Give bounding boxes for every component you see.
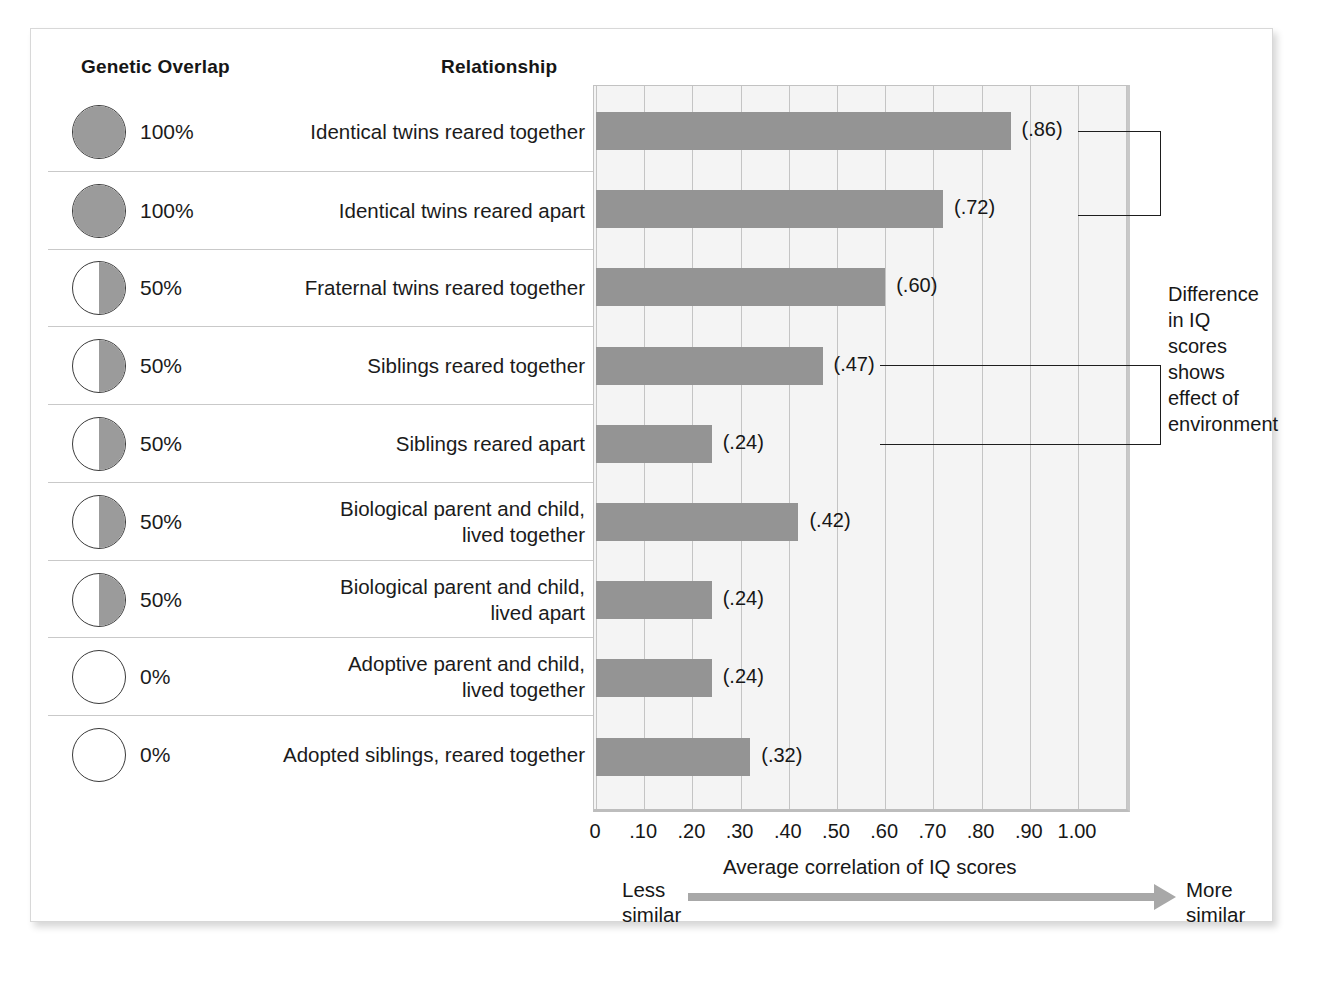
gridline — [1030, 86, 1031, 809]
table-row: 0%Adoptive parent and child, lived toget… — [48, 637, 593, 715]
genetic-overlap-circle-icon — [72, 184, 126, 238]
circle-fill-half — [99, 574, 125, 626]
relationship-label: Identical twins reared together — [310, 119, 585, 145]
circle-fill-half — [99, 340, 125, 392]
genetic-overlap-percent: 100% — [140, 199, 194, 223]
genetic-overlap-percent: 50% — [140, 510, 182, 534]
genetic-overlap-circle-icon — [72, 105, 126, 159]
bar-value-label: (.24) — [723, 431, 764, 454]
circle-fill-half — [99, 262, 125, 314]
x-axis-tick: .80 — [967, 820, 995, 843]
table-row: 50%Biological parent and child, lived to… — [48, 482, 593, 560]
x-axis-tick: 0 — [589, 820, 600, 843]
bracket-identical-twins — [1078, 131, 1161, 216]
table-row: 50%Siblings reared apart — [48, 404, 593, 482]
relationship-label: Adopted siblings, reared together — [283, 742, 585, 768]
table-row: 50%Biological parent and child, lived ap… — [48, 560, 593, 638]
environment-effect-annotation: Difference in IQ scores shows effect of … — [1168, 281, 1278, 437]
less-similar-label: Less similar — [622, 877, 681, 927]
genetic-overlap-circle-icon — [72, 495, 126, 549]
bar-value-label: (.24) — [723, 665, 764, 688]
more-similar-label: More similar — [1186, 877, 1245, 927]
genetic-overlap-percent: 50% — [140, 276, 182, 300]
bar — [596, 425, 712, 463]
x-axis-tick: 1.00 — [1058, 820, 1097, 843]
bar — [596, 738, 750, 776]
x-axis-tick: .20 — [677, 820, 705, 843]
relationship-label: Biological parent and child, lived toget… — [340, 496, 585, 548]
table-row: 0%Adopted siblings, reared together — [48, 715, 593, 793]
genetic-overlap-circle-icon — [72, 650, 126, 704]
bar — [596, 112, 1011, 150]
genetic-overlap-percent: 50% — [140, 354, 182, 378]
genetic-overlap-circle-icon — [72, 573, 126, 627]
bar — [596, 581, 712, 619]
bar-value-label: (.60) — [896, 274, 937, 297]
x-axis-tick: .10 — [629, 820, 657, 843]
x-axis-caption: Average correlation of IQ scores — [723, 855, 1017, 879]
figure-root: Genetic Overlap Relationship 100%Identic… — [0, 0, 1325, 983]
bar-value-label: (.72) — [954, 196, 995, 219]
table-row: 50%Fraternal twins reared together — [48, 249, 593, 327]
genetic-overlap-percent: 50% — [140, 588, 182, 612]
x-axis-tick: .90 — [1015, 820, 1043, 843]
column-header-genetic-overlap: Genetic Overlap — [81, 56, 230, 78]
bar — [596, 347, 823, 385]
bar-value-label: (.86) — [1022, 118, 1063, 141]
relationship-label: Adoptive parent and child, lived togethe… — [348, 651, 585, 703]
x-axis-tick: .30 — [726, 820, 754, 843]
bar — [596, 268, 885, 306]
bar-chart-plot-area — [593, 85, 1130, 812]
bar-value-label: (.42) — [809, 509, 850, 532]
column-header-relationship: Relationship — [441, 56, 557, 78]
circle-fill-half — [99, 418, 125, 470]
bar-value-label: (.32) — [761, 744, 802, 767]
genetic-overlap-percent: 100% — [140, 120, 194, 144]
similarity-arrow-shaft — [688, 893, 1156, 901]
bar — [596, 190, 943, 228]
genetic-overlap-circle-icon — [72, 728, 126, 782]
relationship-label: Fraternal twins reared together — [305, 275, 585, 301]
bar-value-label: (.24) — [723, 587, 764, 610]
circle-fill-full — [73, 106, 125, 158]
table-row: 50%Siblings reared together — [48, 326, 593, 404]
x-axis-tick: .60 — [870, 820, 898, 843]
relationship-label: Biological parent and child, lived apart — [340, 574, 585, 626]
x-axis-tick: .50 — [822, 820, 850, 843]
bar — [596, 503, 798, 541]
relationship-label: Siblings reared apart — [396, 431, 585, 457]
relationship-label: Siblings reared together — [367, 353, 585, 379]
circle-fill-half — [99, 496, 125, 548]
bar-value-label: (.47) — [834, 353, 875, 376]
x-axis-tick: .70 — [918, 820, 946, 843]
genetic-overlap-circle-icon — [72, 261, 126, 315]
genetic-overlap-percent: 0% — [140, 743, 170, 767]
circle-fill-full — [73, 185, 125, 237]
genetic-overlap-percent: 0% — [140, 665, 170, 689]
table-row: 100%Identical twins reared apart — [48, 171, 593, 249]
right-arrow-icon — [1154, 884, 1176, 910]
genetic-overlap-percent: 50% — [140, 432, 182, 456]
table-row: 100%Identical twins reared together — [48, 93, 593, 171]
genetic-overlap-circle-icon — [72, 339, 126, 393]
gridline — [982, 86, 983, 809]
bar — [596, 659, 712, 697]
relationship-table: 100%Identical twins reared together100%I… — [48, 93, 593, 793]
x-axis-tick: .40 — [774, 820, 802, 843]
relationship-label: Identical twins reared apart — [339, 198, 585, 224]
genetic-overlap-circle-icon — [72, 417, 126, 471]
bracket-siblings — [880, 365, 1161, 445]
